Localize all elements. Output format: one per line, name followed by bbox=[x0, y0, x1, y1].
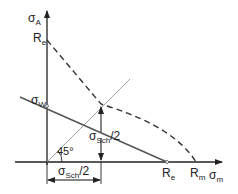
x-axis-label: σm bbox=[209, 169, 223, 184]
angle-label: 45° bbox=[57, 146, 74, 157]
vertical-dim-label: σSch/2 bbox=[89, 130, 120, 145]
rm-label: Rm bbox=[190, 167, 205, 182]
sigma-w-label: σW bbox=[31, 94, 46, 109]
re-bottom-label: Re bbox=[162, 167, 175, 182]
horizontal-dim-label: σSch/2 bbox=[58, 165, 89, 180]
y-axis-label: σA bbox=[28, 12, 41, 27]
dashed-limit-line bbox=[47, 40, 196, 162]
re-top-label: Re bbox=[33, 32, 46, 47]
